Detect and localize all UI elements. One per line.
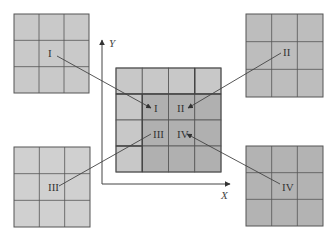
source-label-ii: II xyxy=(283,46,291,58)
center-label-iii: III xyxy=(153,128,164,140)
center-grid-cell xyxy=(116,68,142,94)
center-label-ii: II xyxy=(177,102,185,114)
center-grid-cell xyxy=(142,146,168,172)
y-axis-label: Y xyxy=(109,37,117,49)
center-grid-cell xyxy=(142,68,168,94)
tiling-diagram: Y X I II III IV I II III IV xyxy=(0,0,334,238)
source-label-i: I xyxy=(48,47,52,59)
center-grid-cell xyxy=(195,120,221,146)
center-grid-cell xyxy=(116,146,142,172)
source-label-iv: IV xyxy=(282,181,294,193)
center-grid-cell xyxy=(116,94,142,120)
center-grid-cell xyxy=(169,146,195,172)
source-label-iii: III xyxy=(48,181,59,193)
center-grid-cell xyxy=(169,68,195,94)
center-grid-cell xyxy=(195,68,221,94)
x-axis-label: X xyxy=(220,189,229,201)
center-grid-cell xyxy=(116,120,142,146)
center-label-iv: IV xyxy=(177,128,189,140)
center-grid-cell xyxy=(195,94,221,120)
center-grid xyxy=(116,68,221,172)
center-label-i: I xyxy=(154,102,158,114)
